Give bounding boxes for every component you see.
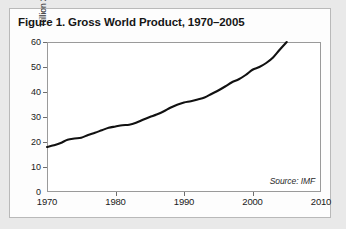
plot-area: Trillion 2005 Dollars 0102030405060 1970… bbox=[47, 42, 321, 192]
y-tick-label: 30 bbox=[19, 113, 41, 122]
y-tick-label: 40 bbox=[19, 88, 41, 97]
y-tick-label: 60 bbox=[19, 38, 41, 47]
x-tick-label: 1980 bbox=[96, 196, 136, 207]
source-note: Source: IMF bbox=[270, 176, 315, 186]
x-tick-label: 1970 bbox=[27, 196, 67, 207]
figure-title: Figure 1. Gross World Product, 1970–2005 bbox=[18, 16, 245, 28]
series-line-gross-world-product bbox=[47, 42, 287, 147]
y-tick-label: 50 bbox=[19, 63, 41, 72]
x-tick-mark bbox=[253, 192, 254, 196]
x-tick-mark bbox=[184, 192, 185, 196]
x-tick-label: 2000 bbox=[233, 196, 273, 207]
x-tick-mark bbox=[116, 192, 117, 196]
figure-card: Figure 1. Gross World Product, 1970–2005… bbox=[9, 8, 331, 218]
y-tick-label: 10 bbox=[19, 163, 41, 172]
x-tick-label: 1990 bbox=[164, 196, 204, 207]
x-tick-label: 2010 bbox=[301, 196, 341, 207]
series-plot bbox=[47, 42, 321, 192]
y-tick-label: 20 bbox=[19, 138, 41, 147]
figure-screenshot: Figure 1. Gross World Product, 1970–2005… bbox=[0, 0, 346, 229]
